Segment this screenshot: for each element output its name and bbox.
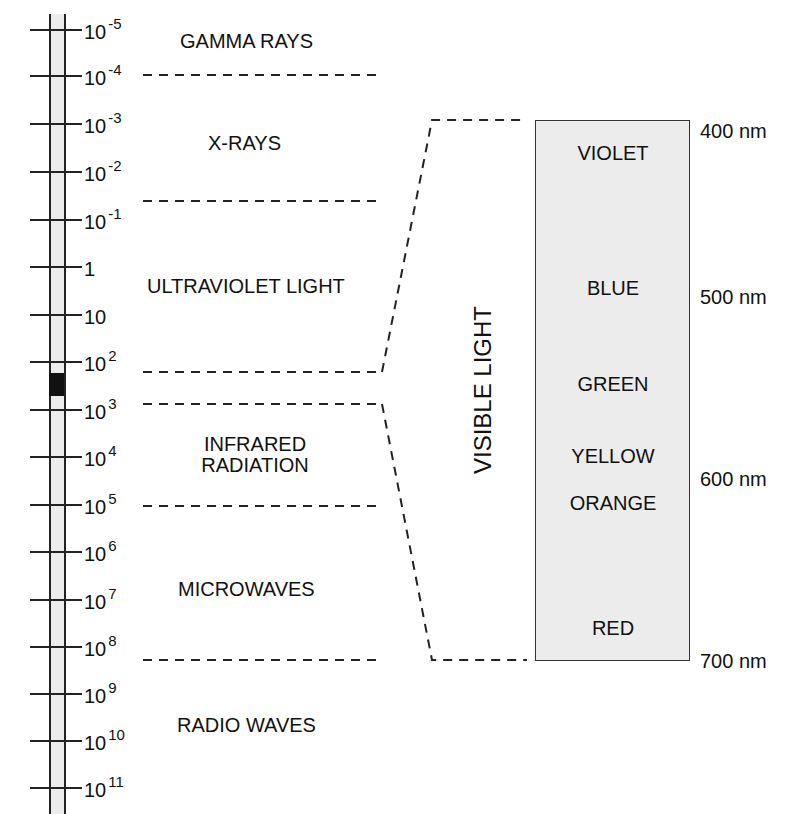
scale-tick bbox=[30, 409, 82, 411]
tick-exponent: 4 bbox=[108, 442, 116, 459]
tick-exponent: 5 bbox=[108, 490, 116, 507]
scale-tick-label: 106 bbox=[84, 544, 117, 564]
scale-tick-label: 10-3 bbox=[84, 116, 122, 136]
band-label-infrared: INFRARED RADIATION bbox=[190, 434, 320, 476]
tick-exponent: 2 bbox=[108, 347, 116, 364]
scale-tick-label: 108 bbox=[84, 639, 117, 659]
tick-base: 10 bbox=[84, 685, 106, 707]
band-label-ultraviolet: ULTRAVIOLET LIGHT bbox=[147, 275, 345, 297]
wavelength-label-500nm: 500 nm bbox=[700, 286, 767, 309]
wavelength-label-700nm: 700 nm bbox=[700, 650, 767, 673]
tick-exponent: 9 bbox=[108, 679, 116, 696]
scale-tick bbox=[30, 740, 82, 742]
scale-tick bbox=[30, 504, 82, 506]
tick-exponent: -5 bbox=[108, 15, 121, 32]
tick-base: 10 bbox=[84, 448, 106, 470]
infrared-line1: INFRARED bbox=[190, 434, 320, 455]
tick-base: 10 bbox=[84, 638, 106, 660]
scale-tick-label: 1 bbox=[84, 259, 95, 279]
tick-base: 10 bbox=[84, 496, 106, 518]
color-label-green: GREEN bbox=[535, 373, 691, 396]
visible-range-marker bbox=[49, 373, 64, 396]
scale-tick bbox=[30, 123, 82, 125]
color-label-yellow: YELLOW bbox=[535, 445, 691, 468]
scale-tick bbox=[30, 29, 82, 31]
band-label-x-rays: X-RAYS bbox=[208, 132, 281, 154]
tick-base: 10 bbox=[84, 779, 106, 801]
tick-exponent: -3 bbox=[108, 109, 121, 126]
scale-tick-label: 104 bbox=[84, 449, 117, 469]
scale-tick-label: 109 bbox=[84, 686, 117, 706]
scale-tick bbox=[30, 266, 82, 268]
scale-tick-label: 10-2 bbox=[84, 164, 122, 184]
funnel-bottom-line bbox=[382, 404, 527, 660]
scale-tick bbox=[30, 646, 82, 648]
scale-tick bbox=[30, 456, 82, 458]
color-label-violet: VIOLET bbox=[535, 142, 691, 165]
scale-tick-label: 10 bbox=[84, 307, 106, 327]
tick-base: 10 bbox=[84, 306, 106, 328]
tick-base: 10 bbox=[84, 21, 106, 43]
tick-exponent: 10 bbox=[108, 726, 125, 743]
color-label-orange: ORANGE bbox=[535, 492, 691, 515]
tick-base: 10 bbox=[84, 543, 106, 565]
funnel-top-line bbox=[382, 120, 527, 372]
scale-tick bbox=[30, 361, 82, 363]
scale-tick-label: 105 bbox=[84, 497, 117, 517]
tick-base: 10 bbox=[84, 591, 106, 613]
tick-base: 10 bbox=[84, 401, 106, 423]
tick-base: 10 bbox=[84, 163, 106, 185]
tick-exponent: 6 bbox=[108, 537, 116, 554]
scale-tick-label: 1011 bbox=[84, 780, 124, 800]
scale-tick-label: 10-5 bbox=[84, 22, 122, 42]
tick-exponent: 7 bbox=[108, 585, 116, 602]
tick-base: 10 bbox=[84, 353, 106, 375]
visible-light-title: VISIBLE LIGHT bbox=[469, 290, 497, 490]
scale-tick bbox=[30, 314, 82, 316]
tick-base: 10 bbox=[84, 211, 106, 233]
scale-tick-label: 103 bbox=[84, 402, 117, 422]
scale-tick bbox=[30, 75, 82, 77]
scale-tick bbox=[30, 693, 82, 695]
scale-tick-label: 102 bbox=[84, 354, 117, 374]
tick-base: 10 bbox=[84, 115, 106, 137]
scale-tick bbox=[30, 171, 82, 173]
tick-base: 10 bbox=[84, 67, 106, 89]
tick-exponent: 11 bbox=[108, 773, 124, 790]
tick-base: 10 bbox=[84, 732, 106, 754]
scale-tick-label: 107 bbox=[84, 592, 117, 612]
band-label-microwaves: MICROWAVES bbox=[178, 578, 315, 600]
color-label-red: RED bbox=[535, 617, 691, 640]
scale-tick bbox=[30, 599, 82, 601]
tick-exponent: -1 bbox=[108, 205, 121, 222]
infrared-line2: RADIATION bbox=[190, 455, 320, 476]
scale-tick-label: 10-4 bbox=[84, 68, 122, 88]
scale-tick bbox=[30, 551, 82, 553]
tick-exponent: 3 bbox=[108, 395, 116, 412]
scale-tick-label: 1010 bbox=[84, 733, 125, 753]
tick-exponent: 8 bbox=[108, 632, 116, 649]
wavelength-label-600nm: 600 nm bbox=[700, 468, 767, 491]
scale-tick bbox=[30, 787, 82, 789]
scale-tick-label: 10-1 bbox=[84, 212, 122, 232]
tick-base: 1 bbox=[84, 258, 95, 280]
band-label-radio-waves: RADIO WAVES bbox=[177, 714, 316, 736]
color-label-blue: BLUE bbox=[535, 277, 691, 300]
tick-exponent: -2 bbox=[108, 157, 121, 174]
scale-tick bbox=[30, 219, 82, 221]
tick-exponent: -4 bbox=[108, 61, 121, 78]
wavelength-label-400nm: 400 nm bbox=[700, 120, 767, 143]
band-label-gamma-rays: GAMMA RAYS bbox=[180, 30, 313, 52]
